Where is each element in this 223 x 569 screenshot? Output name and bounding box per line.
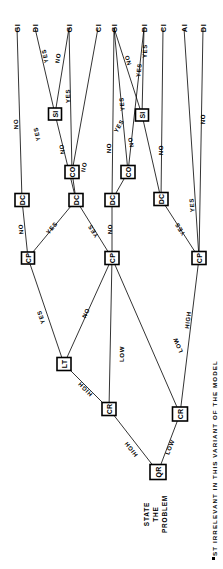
node-dc3[interactable]: DC xyxy=(105,194,119,207)
node-co1[interactable]: CO xyxy=(65,166,79,179)
node-qr[interactable]: QR xyxy=(150,465,166,480)
edge-label-cp2-dc2: YES xyxy=(87,223,100,238)
node-label: DC xyxy=(158,194,165,205)
leaf-label: CI xyxy=(94,24,103,33)
edge-label-qr-cr1: HIGH xyxy=(123,440,139,458)
leaf-l1-gi: GI xyxy=(13,23,22,32)
edge-co1-to-l4 xyxy=(72,28,98,172)
edge-label-cr2-cp2: LOW xyxy=(172,336,184,353)
node-cp2[interactable]: CP xyxy=(105,252,119,265)
node-dc2[interactable]: DC xyxy=(69,194,83,207)
edge-qr-to-cr1 xyxy=(109,409,158,472)
edge-cp3-to-l9 xyxy=(199,28,203,258)
root-caption-line: THE xyxy=(152,506,159,521)
edge-label-co1-l3: YES xyxy=(65,89,71,103)
edge-label-text: YES xyxy=(32,126,41,141)
node-label: LT xyxy=(61,359,68,368)
leaf-l2-di: DI xyxy=(31,24,40,33)
edge-label-cp3-l9: NO xyxy=(200,114,206,125)
edge-label-cp1-dc1: NO xyxy=(17,224,24,235)
edge-label-cp3-l8: YES xyxy=(189,198,196,212)
node-layer: QRCRCRLTCPCPCPDCDCDCDCSICOSICO xyxy=(15,108,206,480)
edge-label-text: YES xyxy=(189,198,196,212)
edge-label-text: YES xyxy=(135,63,143,78)
root-caption-line: PROBLEM xyxy=(161,495,168,533)
edge-label-text: NO xyxy=(80,161,88,172)
node-label: CO xyxy=(125,166,132,177)
edge-label-text: NO xyxy=(54,52,62,63)
leaf-label: DI xyxy=(199,24,208,33)
edge-label-text: HIGH xyxy=(123,440,139,458)
edge-label-qr-cr2: LOW xyxy=(164,438,175,455)
leaf-label: AI xyxy=(180,24,189,33)
root-caption-group: THE xyxy=(152,506,159,521)
edge-label-cp1-dc2: YES xyxy=(45,221,59,236)
node-label: DC xyxy=(19,195,26,206)
leaf-l9-di: DI xyxy=(199,24,208,33)
node-cp3[interactable]: CP xyxy=(192,252,206,265)
decision-tree-diagram: QRCRCRLTCPCPCPDCDCDCDCSICOSICO GIDIGICIG… xyxy=(0,0,223,569)
node-label: DC xyxy=(109,195,116,206)
footnote-marker-icon xyxy=(212,557,215,560)
node-si1[interactable]: SI xyxy=(49,108,62,120)
edge-label-dc2-si1: YES xyxy=(32,126,41,141)
node-label: CR xyxy=(177,409,184,420)
leaf-label: GI xyxy=(13,23,22,32)
root-caption-line: STATE xyxy=(143,502,150,526)
edge-label-text: YES xyxy=(87,223,100,238)
node-dc1[interactable]: DC xyxy=(15,194,29,207)
leaf-l8-ai: AI xyxy=(180,24,189,33)
node-dc4[interactable]: DC xyxy=(154,193,168,206)
leaf-l5-gi: GI xyxy=(110,23,119,32)
edge-label-text: NO xyxy=(158,145,164,155)
edge-label-si2-l5: NO xyxy=(124,54,133,66)
edge-label-text: LOW xyxy=(164,438,175,455)
edge-label-cr1-cp2: LOW xyxy=(119,346,125,362)
edge-label-si1-l2: YES xyxy=(40,48,49,63)
edge-label-text: LOW xyxy=(119,346,125,362)
edge-label-co2-l5: YES xyxy=(118,97,125,112)
edge-label-text: NO xyxy=(58,143,65,154)
edge-dc1-to-l1 xyxy=(17,28,22,200)
decision-tree-canvas: QRCRCRLTCPCPCPDCDCDCDCSICOSICO GIDIGICIG… xyxy=(0,0,223,569)
edge-label-text: YES xyxy=(142,44,148,58)
edge-label-cr1-lt: HIGH xyxy=(77,381,94,398)
footnote-text: ST IRRELEVANT IN THIS VARIANT OF THE MOD… xyxy=(211,360,218,556)
edge-cr1-to-cp2 xyxy=(109,258,112,409)
node-si2[interactable]: SI xyxy=(136,109,149,121)
node-label: SI xyxy=(139,111,146,118)
leaf-l3-gi: GI xyxy=(65,23,74,32)
leaf-label: DI xyxy=(140,24,149,33)
node-label: CO xyxy=(69,166,76,177)
edge-label-text: HIGH xyxy=(77,381,94,398)
node-label: QR xyxy=(155,466,163,477)
edge-lt-to-cp1 xyxy=(28,258,64,364)
node-label: CR xyxy=(106,404,113,415)
footnote-group: ST IRRELEVANT IN THIS VARIANT OF THE MOD… xyxy=(211,360,218,560)
node-label: SI xyxy=(52,110,59,117)
node-cr1[interactable]: CR xyxy=(102,403,116,416)
edge-label-dc4-l7: NO xyxy=(158,145,164,155)
node-lt[interactable]: LT xyxy=(57,358,71,371)
edge-label-text: NO xyxy=(13,119,19,130)
edge-dc4-to-l7 xyxy=(161,28,163,199)
node-label: CP xyxy=(25,253,32,263)
node-cp1[interactable]: CP xyxy=(22,252,35,264)
root-caption: STATETHEPROBLEM xyxy=(143,495,168,533)
node-label: CP xyxy=(196,253,203,263)
edge-label-dc3-l5: NO xyxy=(106,143,112,153)
edge-label-text: YES xyxy=(118,97,125,112)
edge-label-text: NO xyxy=(106,143,112,153)
edge-label-text: YES xyxy=(45,221,59,236)
root-caption-group: PROBLEM xyxy=(161,495,168,533)
edge-label-si1-l3: NO xyxy=(54,52,62,63)
edge-label-si2-l6: YES xyxy=(142,44,148,58)
edge-label-text: NO xyxy=(124,54,133,66)
edge-label-dc1-l1: NO xyxy=(13,119,19,130)
leaf-label: DI xyxy=(31,24,40,33)
edge-dc2-to-si1 xyxy=(55,114,76,200)
leaf-l7-ci: CI xyxy=(159,24,168,33)
node-co2[interactable]: CO xyxy=(121,166,135,179)
root-caption-group: STATE xyxy=(143,502,150,526)
node-cr2[interactable]: CR xyxy=(173,407,188,421)
